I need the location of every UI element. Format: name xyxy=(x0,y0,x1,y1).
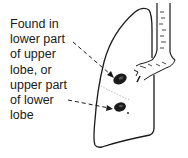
lesion-upper-lobe-icon xyxy=(112,72,129,87)
lesion-lower-lobe-icon xyxy=(113,101,129,114)
fissure-line xyxy=(101,86,130,100)
arrow-lower-lesion xyxy=(68,100,113,111)
trachea xyxy=(152,3,175,60)
lung-diagram xyxy=(0,0,188,158)
lung-mediastinal-edge xyxy=(149,10,152,58)
arrow-upper-lesion xyxy=(73,42,114,78)
